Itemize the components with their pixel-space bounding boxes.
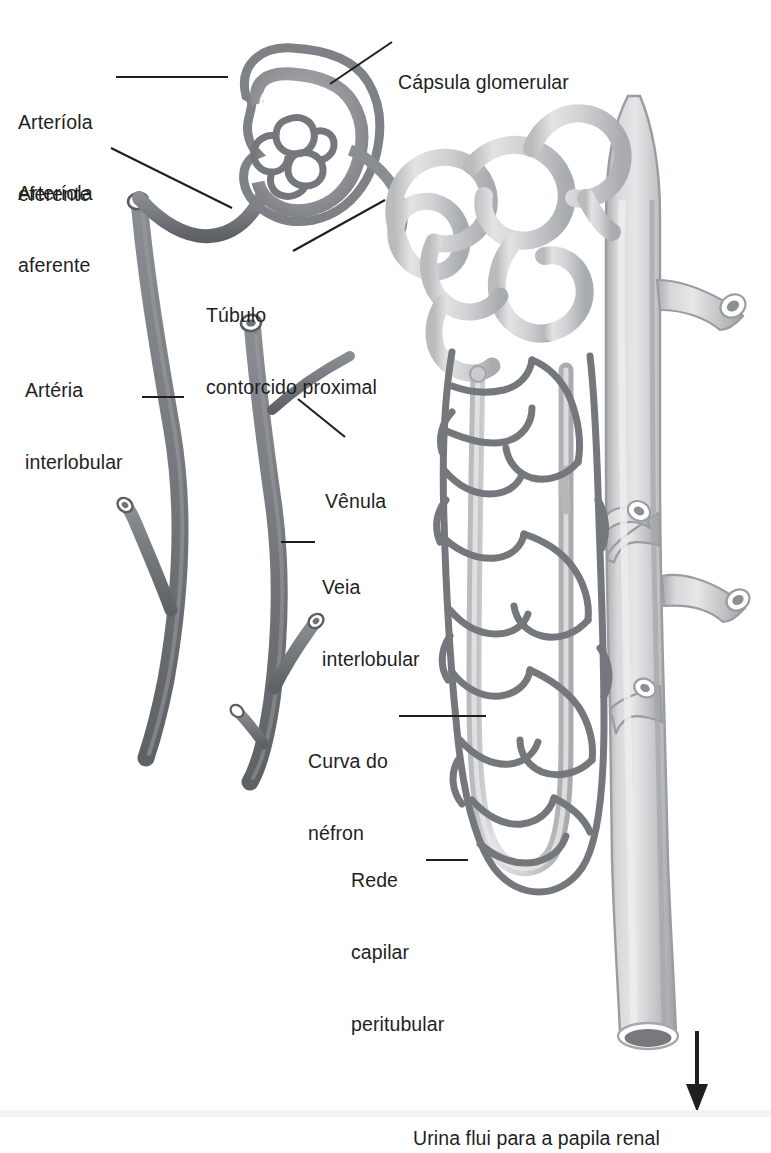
label-arteria-line-2: interlobular — [25, 450, 123, 474]
label-curva-line-1: Curva do — [308, 749, 388, 773]
label-venula-line-1: Vênula — [325, 489, 386, 513]
label-tubulo-line-2: contorcido proximal — [206, 375, 377, 399]
capillary-cross-6 — [446, 534, 524, 558]
capillary-cross-7 — [524, 534, 588, 620]
page-bottom-edge — [0, 1110, 771, 1117]
label-arteria-line-1: Artéria — [25, 378, 123, 402]
label-arteriola-aferente-line-1: Arteríola — [18, 181, 93, 205]
interlobular-artery — [115, 191, 183, 758]
label-arteriola-eferente-line-1: Arteríola — [18, 110, 93, 134]
label-rede-capilar-peritubular: Rede capilar peritubular — [351, 820, 444, 1084]
pct-coil-6 — [544, 255, 585, 332]
pct-coil-3 — [472, 145, 567, 241]
capillary-cross-2 — [444, 408, 532, 443]
label-arteriola-aferente-line-2: aferente — [18, 253, 93, 277]
label-capsula-glomerular-line-1: Cápsula glomerular — [398, 70, 569, 94]
glomerulus — [254, 118, 334, 197]
artery-branch-left — [126, 506, 171, 610]
loop-top-junction-left — [470, 366, 486, 382]
glomerular-capsule — [244, 48, 403, 236]
afferent-arteriole-vessel — [139, 196, 262, 236]
urine-flow-arrow — [686, 1031, 708, 1112]
glomerulus-loop-1 — [276, 118, 314, 154]
label-rede-line-2: capilar — [351, 940, 444, 964]
label-tubulo-line-1: Túbulo — [206, 303, 377, 327]
duct-mouth-lumen — [625, 1029, 672, 1047]
collecting-duct — [600, 96, 754, 1049]
afferent-efferent-arterioles — [139, 196, 262, 236]
label-veia-line-2: interlobular — [322, 647, 420, 671]
label-tubulo-contorcido-proximal: Túbulo contorcido proximal — [206, 255, 377, 447]
label-veia-interlobular: Veia interlobular — [322, 527, 420, 719]
interlobular-artery-trunk — [139, 200, 180, 758]
label-arteriola-aferente: Arteríola aferente — [18, 133, 93, 325]
capillary-cross-10 — [452, 670, 530, 696]
peritubular-capillary-network — [437, 352, 609, 892]
label-arteria-interlobular: Artéria interlobular — [25, 330, 123, 522]
label-urina-line-1: Urina flui para a papila renal — [413, 1126, 660, 1150]
label-capsula-glomerular: Cápsula glomerular — [398, 22, 569, 142]
label-rede-line-3: peritubular — [351, 1012, 444, 1036]
proximal-convoluted-tubule — [394, 113, 623, 373]
flow-arrow-head — [686, 1084, 708, 1112]
label-veia-line-1: Veia — [322, 575, 420, 599]
label-rede-line-1: Rede — [351, 868, 444, 892]
glomerulus-loop-2 — [288, 152, 323, 186]
